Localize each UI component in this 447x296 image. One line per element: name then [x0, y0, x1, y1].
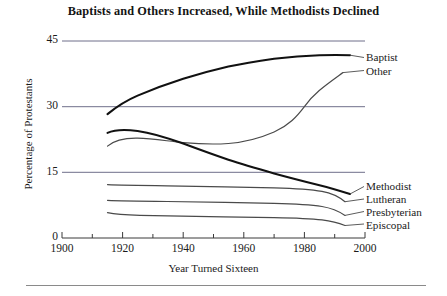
gridlines — [62, 41, 365, 172]
x-tick-label-1960: 1960 — [219, 242, 269, 254]
y-tick-label-30: 30 — [28, 99, 58, 111]
series-line-baptist — [108, 55, 351, 114]
series-line-lutheran — [108, 185, 346, 202]
x-tick-label-1920: 1920 — [98, 242, 148, 254]
series-line-methodist — [108, 130, 351, 194]
series-line-episcopal — [108, 213, 346, 226]
series-label-lutheran: Lutheran — [366, 193, 406, 205]
y-axis-label: Percentage of Protestants — [22, 44, 34, 224]
series-curves — [108, 55, 351, 225]
x-tick-label-2000: 2000 — [340, 242, 390, 254]
y-tick-label-45: 45 — [28, 33, 58, 45]
bottom-divider — [26, 285, 426, 286]
series-label-baptist: Baptist — [366, 51, 398, 63]
series-label-methodist: Methodist — [366, 180, 411, 192]
series-leader-lines — [343, 55, 364, 225]
series-line-other — [108, 73, 344, 147]
series-label-presbyterian: Presbyterian — [366, 206, 422, 218]
chart-container: Baptists and Others Increased, While Met… — [0, 0, 447, 296]
x-axis-label: Year Turned Sixteen — [62, 262, 365, 274]
y-tick-label-0: 0 — [28, 230, 58, 242]
x-tick-label-1940: 1940 — [158, 242, 208, 254]
series-label-other: Other — [366, 65, 391, 77]
x-axis-ticks — [62, 232, 365, 238]
y-tick-label-15: 15 — [28, 165, 58, 177]
x-tick-label-1980: 1980 — [279, 242, 329, 254]
x-axis — [62, 232, 365, 238]
series-label-episcopal: Episcopal — [366, 219, 410, 231]
x-tick-label-1900: 1900 — [37, 242, 87, 254]
series-line-presbyterian — [108, 200, 346, 215]
